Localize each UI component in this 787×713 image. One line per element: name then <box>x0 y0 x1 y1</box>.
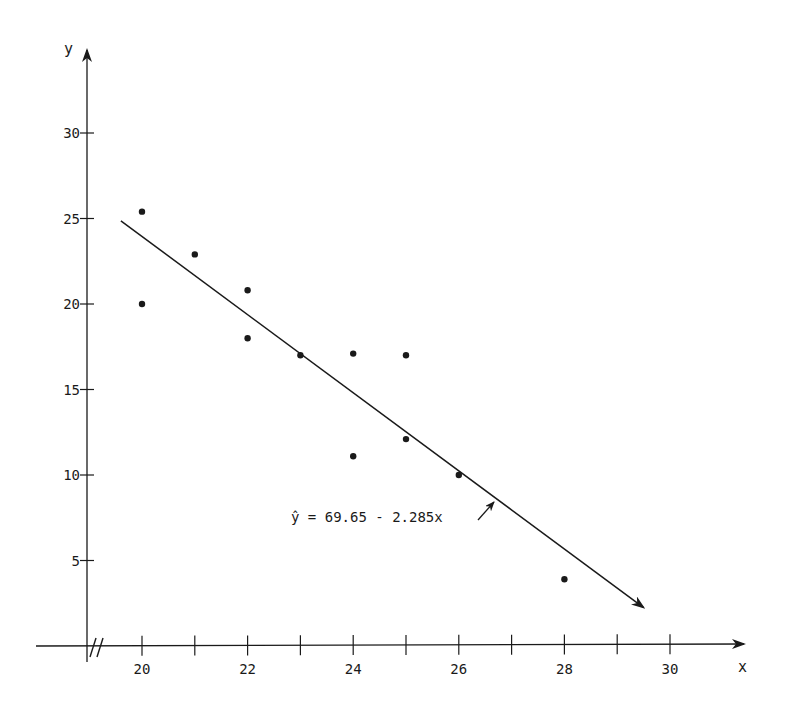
data-point <box>403 352 409 358</box>
y-axis-label: y <box>64 40 73 58</box>
equation-pointer-arrow <box>478 502 494 520</box>
y-tick-label: 15 <box>63 382 80 398</box>
regression-line <box>121 221 644 608</box>
data-point <box>297 352 303 358</box>
x-tick-label: 30 <box>662 661 679 677</box>
data-point <box>350 350 356 356</box>
x-tick-label: 20 <box>134 661 151 677</box>
x-tick-label: 24 <box>345 661 362 677</box>
data-point <box>139 208 145 214</box>
data-point <box>244 287 250 293</box>
x-tick-label: 26 <box>450 661 467 677</box>
y-tick-label: 30 <box>63 125 80 141</box>
data-point <box>244 335 250 341</box>
axis-break-icon <box>90 638 103 657</box>
data-point <box>350 453 356 459</box>
data-point <box>561 576 567 582</box>
regression-scatter-chart: y x 51015202530 202224262830 ŷ = 69.65 -… <box>0 0 787 713</box>
data-point <box>192 251 198 257</box>
x-axis-label: x <box>738 658 747 676</box>
regression-equation: ŷ = 69.65 - 2.285x <box>291 509 443 525</box>
data-point <box>456 472 462 478</box>
y-tick-label: 20 <box>63 296 80 312</box>
y-tick-label: 25 <box>63 211 80 227</box>
data-points <box>139 208 568 582</box>
data-point <box>139 301 145 307</box>
x-ticks: 202224262830 <box>134 634 679 677</box>
y-tick-label: 5 <box>72 553 80 569</box>
y-ticks: 51015202530 <box>63 125 94 569</box>
x-tick-label: 28 <box>556 661 573 677</box>
data-point <box>403 436 409 442</box>
x-tick-label: 22 <box>239 661 256 677</box>
y-tick-label: 10 <box>63 467 80 483</box>
